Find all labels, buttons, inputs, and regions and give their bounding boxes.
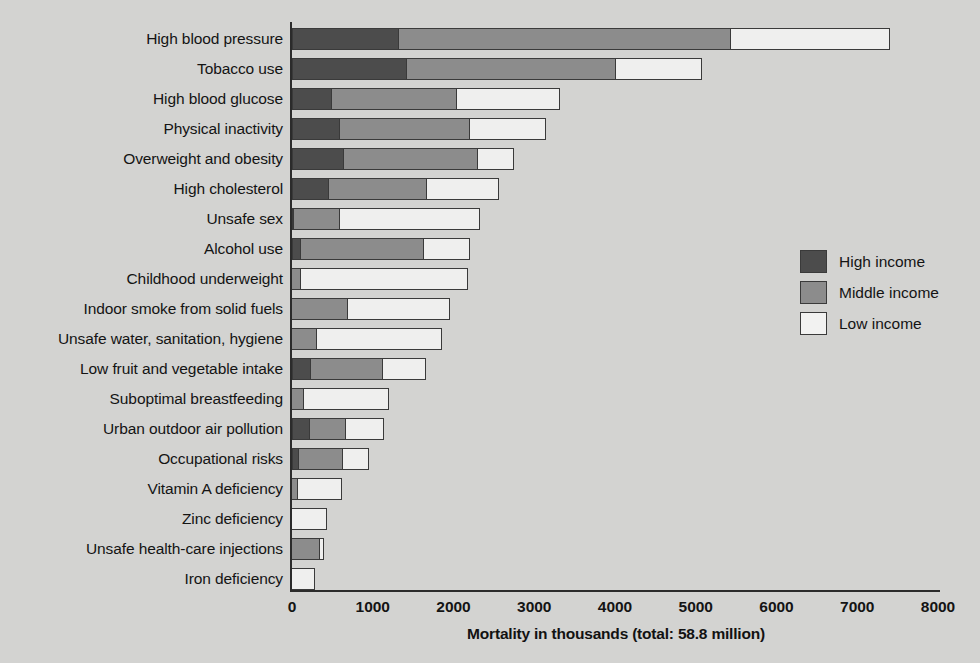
bar-segment-high — [292, 58, 407, 80]
legend-item: Middle income — [800, 277, 975, 308]
bar-segment-low — [339, 208, 480, 230]
category-label: Suboptimal breastfeeding — [0, 388, 283, 410]
bar-row — [292, 388, 389, 410]
category-label: Zinc deficiency — [0, 508, 283, 530]
bar-row — [292, 418, 384, 440]
bar-segment-low — [469, 118, 546, 140]
y-axis-line — [290, 22, 292, 592]
category-label: Tobacco use — [0, 58, 283, 80]
category-label: High blood glucose — [0, 88, 283, 110]
x-tick-label: 8000 — [921, 597, 955, 617]
category-label: Alcohol use — [0, 238, 283, 260]
stacked-bar-chart: High blood pressureTobacco useHigh blood… — [0, 0, 980, 663]
bar-segment-low — [347, 298, 450, 320]
bar-row — [292, 178, 499, 200]
category-label: Physical inactivity — [0, 118, 283, 140]
x-axis-title: Mortality in thousands (total: 58.8 mill… — [292, 625, 940, 643]
bar-segment-middle — [339, 118, 470, 140]
x-tick-label: 4000 — [598, 597, 632, 617]
bar-row — [292, 118, 546, 140]
bar-segment-low — [297, 478, 342, 500]
bar-segment-low — [477, 148, 515, 170]
bar-segment-low — [730, 28, 890, 50]
bar-row — [292, 28, 890, 50]
bar-segment-high — [292, 358, 311, 380]
x-axis-tick-labels: 010002000300040005000600070008000 — [0, 597, 980, 619]
bar-segment-high — [292, 118, 340, 140]
x-axis-line — [292, 590, 940, 592]
bar-segment-high — [292, 418, 310, 440]
bar-row — [292, 568, 315, 590]
category-label: Occupational risks — [0, 448, 283, 470]
bar-segment-low — [345, 418, 384, 440]
x-tick-label: 2000 — [436, 597, 470, 617]
category-label: Unsafe health-care injections — [0, 538, 283, 560]
legend-item: High income — [800, 246, 975, 277]
bar-segment-low — [382, 358, 426, 380]
bar-segment-high — [292, 88, 332, 110]
bar-segment-low — [316, 328, 442, 350]
legend-swatch-icon — [800, 312, 827, 335]
legend-label: Low income — [839, 313, 922, 335]
x-tick-label: 3000 — [517, 597, 551, 617]
legend-swatch-icon — [800, 281, 827, 304]
bar-row — [292, 328, 442, 350]
bar-segment-middle — [298, 448, 343, 470]
bar-row — [292, 88, 560, 110]
category-label: Vitamin A deficiency — [0, 478, 283, 500]
category-label: Low fruit and vegetable intake — [0, 358, 283, 380]
category-axis-labels: High blood pressureTobacco useHigh blood… — [0, 22, 283, 592]
bar-row — [292, 538, 324, 560]
x-tick-label: 7000 — [840, 597, 874, 617]
bar-segment-middle — [328, 178, 427, 200]
bar-segment-middle — [406, 58, 616, 80]
bar-row — [292, 298, 450, 320]
bar-segment-low — [456, 88, 559, 110]
category-label: Iron deficiency — [0, 568, 283, 590]
bar-segment-middle — [300, 238, 424, 260]
bar-row — [292, 58, 702, 80]
category-label: High cholesterol — [0, 178, 283, 200]
bar-segment-low — [426, 178, 499, 200]
bar-segment-low — [319, 538, 324, 560]
bar-row — [292, 268, 468, 290]
bar-row — [292, 448, 369, 470]
category-label: Urban outdoor air pollution — [0, 418, 283, 440]
bar-segment-low — [303, 388, 389, 410]
bar-segment-high — [292, 178, 329, 200]
bar-segment-low — [615, 58, 701, 80]
bar-segment-middle — [331, 88, 457, 110]
bar-segment-high — [292, 28, 399, 50]
bar-row — [292, 478, 342, 500]
bar-segment-middle — [293, 208, 340, 230]
bar-row — [292, 208, 480, 230]
bar-segment-middle — [310, 358, 383, 380]
bar-row — [292, 508, 327, 530]
legend-item: Low income — [800, 308, 975, 339]
legend-swatch-icon — [800, 250, 827, 273]
bar-segment-low — [300, 268, 468, 290]
x-tick-label: 1000 — [356, 597, 390, 617]
category-label: High blood pressure — [0, 28, 283, 50]
bar-segment-middle — [309, 418, 346, 440]
bar-segment-low — [291, 508, 327, 530]
category-label: Childhood underweight — [0, 268, 283, 290]
x-tick-label: 5000 — [679, 597, 713, 617]
category-label: Overweight and obesity — [0, 148, 283, 170]
bar-segment-low — [423, 238, 470, 260]
bar-segment-low — [342, 448, 369, 470]
category-label: Unsafe sex — [0, 208, 283, 230]
bar-segment-middle — [291, 328, 317, 350]
category-label: Unsafe water, sanitation, hygiene — [0, 328, 283, 350]
legend-label: Middle income — [839, 282, 939, 304]
category-label: Indoor smoke from solid fuels — [0, 298, 283, 320]
bar-segment-middle — [398, 28, 731, 50]
bar-segment-middle — [291, 298, 348, 320]
bar-segment-middle — [343, 148, 477, 170]
legend-label: High income — [839, 251, 925, 273]
x-tick-label: 0 — [288, 597, 297, 617]
x-tick-label: 6000 — [759, 597, 793, 617]
bar-row — [292, 148, 514, 170]
bar-segment-middle — [291, 538, 320, 560]
bar-segment-high — [292, 148, 344, 170]
